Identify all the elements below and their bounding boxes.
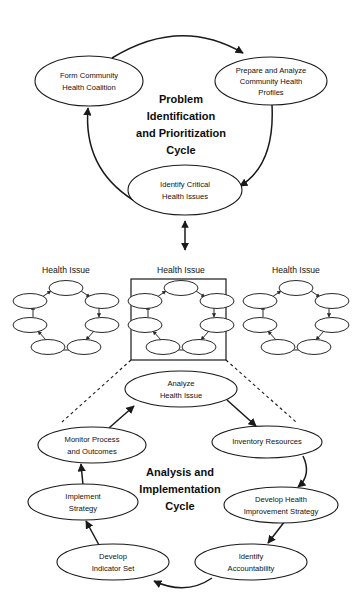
edge-inventory-to-develop-strategy bbox=[298, 456, 307, 487]
node-label-line-1: Implement bbox=[65, 492, 101, 501]
mini-node bbox=[297, 340, 331, 355]
node-label-line-2: and Outcomes bbox=[67, 447, 117, 456]
mini-edge bbox=[153, 331, 161, 340]
node-monitor-process-and-outcomes[interactable]: Monitor Process and Outcomes bbox=[38, 427, 146, 463]
mini-node bbox=[182, 340, 216, 355]
mini-node bbox=[49, 281, 83, 296]
node-label-line-3: Profiles bbox=[258, 88, 284, 97]
mini-edge bbox=[86, 331, 94, 340]
node-label-line-1: Inventory Resources bbox=[232, 437, 302, 446]
node-shape bbox=[195, 544, 307, 580]
health-issue-right-label: Health Issue bbox=[272, 265, 320, 275]
node-form-community-health-coalition[interactable]: Form Community Health Coalition bbox=[35, 56, 143, 106]
mini-edge bbox=[201, 331, 209, 340]
node-identify-critical-health-issues[interactable]: Identify Critical Health Issues bbox=[128, 165, 242, 215]
mini-node bbox=[200, 318, 234, 333]
edge-analyze-to-inventory bbox=[227, 400, 256, 426]
title-line-1: Analysis and bbox=[146, 466, 214, 478]
mini-node bbox=[128, 318, 162, 333]
node-label-line-1: Identify Critical bbox=[160, 180, 210, 189]
node-label-line-2: Indicator Set bbox=[92, 564, 136, 573]
bottom-cycle-title: Analysis and Implementation Cycle bbox=[139, 466, 221, 512]
node-shape bbox=[128, 165, 242, 215]
node-label-line-2: Accountability bbox=[228, 564, 275, 573]
edge-accountability-to-indicator-set bbox=[154, 578, 212, 588]
mini-node bbox=[243, 318, 277, 333]
mini-node bbox=[67, 340, 101, 355]
edge-profiles-to-issues bbox=[240, 105, 272, 186]
title-line-2: Identification bbox=[147, 110, 216, 122]
mini-edge bbox=[316, 331, 324, 340]
mini-node bbox=[128, 294, 162, 309]
mini-node bbox=[315, 294, 349, 309]
title-line-3: and Prioritization bbox=[136, 127, 226, 139]
edge-implement-to-monitor bbox=[81, 464, 83, 485]
mini-node bbox=[243, 294, 277, 309]
node-label-line-2: Health Coalition bbox=[62, 83, 116, 92]
node-inventory-resources[interactable]: Inventory Resources bbox=[212, 426, 322, 458]
mini-node bbox=[200, 294, 234, 309]
node-shape bbox=[224, 487, 338, 523]
node-identify-accountability[interactable]: Identify Accountability bbox=[195, 544, 307, 580]
node-prepare-and-analyze-community-health-profiles[interactable]: Prepare and Analyze Community Health Pro… bbox=[215, 57, 327, 105]
mini-node bbox=[31, 340, 65, 355]
mini-node bbox=[279, 281, 313, 296]
health-issue-left-label: Health Issue bbox=[42, 265, 90, 275]
mini-node bbox=[261, 340, 295, 355]
top-cycle-title: Problem Identification and Prioritizatio… bbox=[136, 93, 226, 156]
node-label-line-1: Analyze bbox=[167, 379, 194, 388]
edge-monitor-to-analyze bbox=[109, 406, 134, 428]
process-diagram-svg: Form Community Health Coalition Prepare … bbox=[0, 0, 358, 606]
title-line-4: Cycle bbox=[166, 144, 195, 156]
node-label-line-1: Develop Health bbox=[255, 495, 307, 504]
mini-node bbox=[85, 294, 119, 309]
title-line-2: Implementation bbox=[139, 483, 221, 495]
node-shape bbox=[125, 371, 237, 407]
node-label-line-2: Health Issue bbox=[160, 391, 202, 400]
node-develop-indicator-set[interactable]: Develop Indicator Set bbox=[57, 544, 169, 580]
mini-edge bbox=[268, 331, 276, 340]
mini-cycle-health-issue-left[interactable] bbox=[13, 281, 119, 355]
mini-node bbox=[146, 340, 180, 355]
node-shape bbox=[28, 484, 138, 520]
node-label-line-1: Monitor Process bbox=[65, 435, 120, 444]
node-label-line-1: Prepare and Analyze bbox=[236, 66, 307, 75]
title-line-3: Cycle bbox=[165, 500, 194, 512]
mini-node bbox=[315, 318, 349, 333]
edge-coalition-to-profiles bbox=[112, 36, 243, 58]
mini-node bbox=[13, 294, 47, 309]
node-implement-strategy[interactable]: Implement Strategy bbox=[28, 484, 138, 520]
edge-develop-strategy-to-accountability bbox=[268, 521, 285, 543]
diagram-canvas: Form Community Health Coalition Prepare … bbox=[0, 0, 358, 606]
mini-node bbox=[13, 318, 47, 333]
node-analyze-health-issue[interactable]: Analyze Health Issue bbox=[125, 371, 237, 407]
node-label-line-2: Community Health bbox=[240, 77, 302, 86]
node-label-line-2: Health Issues bbox=[162, 192, 208, 201]
node-label-line-2: Improvement Strategy bbox=[244, 507, 319, 516]
node-label-line-1: Form Community bbox=[60, 71, 118, 80]
mini-cycle-health-issue-center[interactable] bbox=[128, 281, 234, 355]
mini-cycle-health-issue-right[interactable] bbox=[243, 281, 349, 355]
node-develop-health-improvement-strategy[interactable]: Develop Health Improvement Strategy bbox=[224, 487, 338, 523]
dashed-expansion-left bbox=[62, 360, 131, 422]
edge-issues-to-coalition bbox=[88, 108, 133, 200]
node-shape bbox=[57, 544, 169, 580]
node-label-line-1: Identify bbox=[239, 552, 264, 561]
edge-indicator-set-to-implement bbox=[86, 521, 99, 545]
node-label-line-1: Develop bbox=[99, 552, 127, 561]
health-issue-center-label: Health Issue bbox=[157, 265, 205, 275]
mini-edge bbox=[38, 331, 46, 340]
node-shape bbox=[38, 427, 146, 463]
node-label-line-2: Strategy bbox=[69, 504, 97, 513]
mini-node bbox=[164, 281, 198, 296]
node-shape bbox=[35, 56, 143, 106]
title-line-1: Problem bbox=[159, 93, 203, 105]
mini-node bbox=[85, 318, 119, 333]
